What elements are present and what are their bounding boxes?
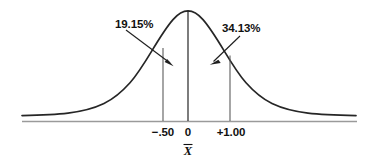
right-percentage-label: 34.13% <box>222 22 260 34</box>
tick-label-minus-half: −.50 <box>152 126 174 138</box>
tick-label-zero: 0 <box>185 126 191 138</box>
mean-symbol-label: X <box>183 144 193 158</box>
normal-curve-figure: 19.15% 34.13% −.50 0 +1.00 X <box>0 0 372 168</box>
figure-canvas: 19.15% 34.13% −.50 0 +1.00 X <box>0 0 372 168</box>
left-percentage-label: 19.15% <box>115 18 153 30</box>
normal-curve-path <box>22 11 356 116</box>
tick-label-plus-one: +1.00 <box>217 126 246 138</box>
